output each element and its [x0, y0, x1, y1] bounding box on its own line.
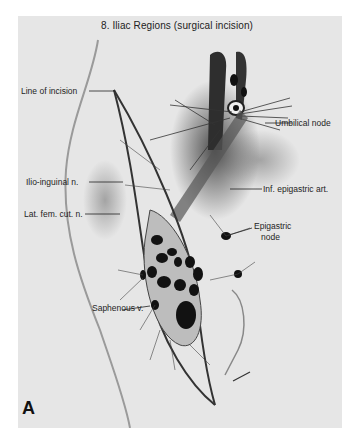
label-epigastric-node-line2: node — [261, 232, 280, 242]
label-ilio-inguinal-n: Ilio-inguinal n. — [26, 177, 78, 187]
figure-panel — [18, 16, 342, 428]
label-umbilical-node: Umbilical node — [275, 118, 331, 128]
label-line-of-incision: Line of incision — [21, 86, 77, 96]
figure-title: 8. Iliac Regions (surgical incision) — [101, 20, 253, 31]
label-saphenous-v: Saphenous v. — [92, 303, 143, 313]
label-epigastric-node: Epigastric — [254, 221, 291, 231]
label-lat-fem-cut-n: Lat. fem. cut. n. — [24, 209, 83, 219]
panel-letter: A — [22, 398, 35, 419]
anatomical-illustration — [18, 16, 342, 428]
label-inf-epigastric-art: Inf. epigastric art. — [263, 184, 328, 194]
